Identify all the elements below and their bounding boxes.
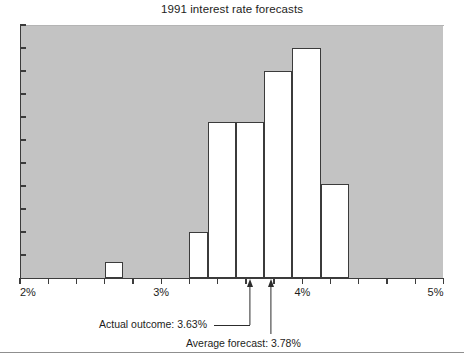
marker-stem-actual-outcome bbox=[250, 287, 251, 325]
x-axis-tick bbox=[443, 278, 444, 284]
marker-stem-average-forecast bbox=[271, 287, 272, 334]
x-axis-tick bbox=[358, 278, 359, 284]
chart-title: 1991 interest rate forecasts bbox=[0, 3, 464, 15]
x-axis-tick bbox=[302, 278, 303, 284]
annotation-average-forecast: Average forecast: 3.78% bbox=[186, 337, 301, 349]
histogram-bar bbox=[208, 122, 236, 278]
marker-arrow-average-forecast bbox=[268, 279, 274, 287]
x-axis-line bbox=[20, 278, 444, 279]
y-axis-line bbox=[20, 25, 21, 279]
x-axis-tick bbox=[189, 278, 190, 284]
x-axis-tick bbox=[132, 278, 133, 284]
histogram-bar bbox=[189, 232, 207, 278]
x-axis-tick bbox=[104, 278, 105, 284]
x-axis-tick bbox=[415, 278, 416, 284]
histogram-bar bbox=[292, 48, 320, 278]
annotation-actual-outcome: Actual outcome: 3.63% bbox=[99, 318, 207, 330]
footer-rule bbox=[0, 352, 464, 353]
leader-line-actual-outcome bbox=[214, 325, 250, 326]
plot-top-edge bbox=[20, 25, 444, 26]
x-axis-label: 4% bbox=[294, 286, 310, 298]
x-axis-tick bbox=[386, 278, 387, 284]
x-axis-tick bbox=[48, 278, 49, 284]
x-axis-tick bbox=[76, 278, 77, 284]
chart-figure: 1991 interest rate forecasts 2%3%4%5% Ac… bbox=[0, 0, 464, 364]
histogram-bar bbox=[264, 71, 292, 278]
x-axis-tick bbox=[217, 278, 218, 284]
histogram-bar bbox=[236, 122, 264, 278]
histogram-bar bbox=[321, 184, 349, 278]
x-axis-label: 2% bbox=[20, 286, 36, 298]
x-axis-tick bbox=[330, 278, 331, 284]
x-axis-tick bbox=[161, 278, 162, 284]
x-axis-tick bbox=[19, 278, 20, 284]
marker-arrow-actual-outcome bbox=[247, 279, 253, 287]
x-axis-label: 5% bbox=[428, 286, 444, 298]
histogram-bar bbox=[105, 262, 123, 278]
x-axis-label: 3% bbox=[153, 286, 169, 298]
